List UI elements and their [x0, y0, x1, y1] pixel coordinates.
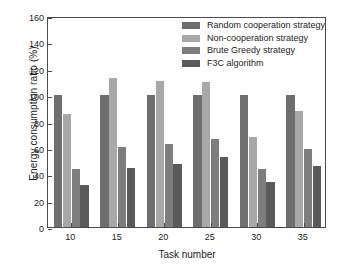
x-tick-label: 35 [288, 232, 318, 242]
x-tick-mark [211, 223, 212, 227]
bar [173, 164, 181, 227]
legend-swatch-icon [182, 47, 200, 54]
y-tick-label: 40 [22, 171, 44, 181]
y-tick-mark [48, 229, 52, 230]
bar [295, 111, 303, 227]
x-tick-label: 15 [102, 232, 132, 242]
x-tick-label: 30 [241, 232, 271, 242]
x-tick-mark [164, 223, 165, 227]
bar [63, 114, 71, 227]
x-tick-label: 20 [148, 232, 178, 242]
y-tick-mark [48, 97, 52, 98]
bar [109, 78, 117, 227]
y-tick-mark [48, 124, 52, 125]
x-tick-mark [304, 223, 305, 227]
bar [147, 95, 155, 227]
legend-item: Random cooperation strategy [182, 20, 325, 31]
bar [54, 95, 62, 227]
legend-item: F3C algorithm [182, 58, 325, 69]
y-tick-label: 140 [22, 39, 44, 49]
legend-label: Brute Greedy strategy [207, 45, 295, 56]
y-tick-mark [48, 44, 52, 45]
bar [220, 157, 228, 227]
y-tick-mark [48, 18, 52, 19]
y-tick-label: 120 [22, 66, 44, 76]
y-tick-label: 160 [22, 13, 44, 23]
bar [118, 147, 126, 227]
bar [72, 169, 80, 227]
bar [100, 95, 108, 227]
chart-legend: Random cooperation strategyNon-cooperati… [182, 20, 325, 70]
legend-label: F3C algorithm [207, 58, 264, 69]
y-tick-mark [48, 203, 52, 204]
x-tick-mark [118, 223, 119, 227]
legend-swatch-icon [182, 60, 200, 67]
x-tick-mark [257, 223, 258, 227]
legend-swatch-icon [182, 22, 200, 29]
bar [286, 95, 294, 227]
x-tick-mark [71, 223, 72, 227]
bar [80, 185, 88, 227]
y-tick-mark [48, 176, 52, 177]
legend-item: Brute Greedy strategy [182, 45, 325, 56]
bar [193, 95, 201, 227]
bar [240, 95, 248, 227]
x-tick-label: 10 [55, 232, 85, 242]
y-tick-label: 80 [22, 119, 44, 129]
chart-figure: Energy consumption ratio (%) 02040608010… [0, 0, 342, 270]
y-tick-mark [48, 150, 52, 151]
legend-label: Non-cooperation strategy [207, 33, 308, 44]
y-tick-label: 0 [22, 224, 44, 234]
bar [266, 182, 274, 227]
bar [202, 82, 210, 227]
y-tick-mark [48, 71, 52, 72]
bar [127, 168, 135, 227]
legend-swatch-icon [182, 35, 200, 42]
bar [165, 144, 173, 227]
y-tick-label: 20 [22, 198, 44, 208]
x-tick-label: 25 [195, 232, 225, 242]
bar [258, 169, 266, 227]
bar [304, 149, 312, 227]
legend-label: Random cooperation strategy [207, 20, 325, 31]
legend-item: Non-cooperation strategy [182, 33, 325, 44]
y-tick-label: 60 [22, 145, 44, 155]
x-axis-label: Task number [47, 249, 327, 260]
bar [313, 166, 321, 227]
y-tick-label: 100 [22, 92, 44, 102]
bar [211, 139, 219, 227]
bar [249, 137, 257, 227]
bar [156, 81, 164, 227]
